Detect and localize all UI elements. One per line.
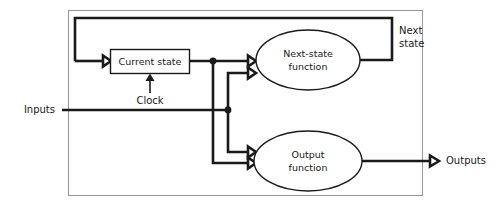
inputs-label: Inputs <box>24 104 55 115</box>
output-function-label-line2: function <box>289 162 328 173</box>
next-state-function-label-line2: function <box>289 61 328 72</box>
diagram-canvas: Current state Next-state function Output… <box>0 0 504 212</box>
circuit-boundary-frame <box>69 11 423 196</box>
inputs-wire <box>62 68 256 158</box>
current-state-label: Current state <box>119 56 182 67</box>
output-function-label-line1: Output <box>292 149 325 160</box>
next-state-function-block[interactable] <box>256 30 360 90</box>
inputs-junction-dot <box>225 107 232 114</box>
output-function-block[interactable] <box>254 131 362 191</box>
clock-wire <box>146 74 155 94</box>
outputs-wire <box>362 156 439 167</box>
next-state-function-label-line1: Next-state <box>283 48 333 59</box>
next-state-label-line2: state <box>399 38 424 49</box>
block-diagram: Current state Next-state function Output… <box>0 0 504 212</box>
clock-label: Clock <box>136 95 163 106</box>
outputs-label: Outputs <box>446 155 486 166</box>
current-state-junction-dot <box>210 58 217 65</box>
next-state-label-line1: Next <box>399 25 422 36</box>
